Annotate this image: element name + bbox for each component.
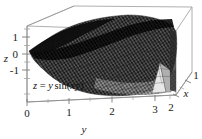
y-axis-title: y <box>81 123 87 135</box>
equation-x: x <box>69 80 75 91</box>
equation-sin: sin <box>54 80 67 91</box>
equation-y: y <box>47 80 53 91</box>
surface-plot-canvas: 1 0 -1 z 0 1 2 3 y <box>0 0 202 139</box>
equation-text: z = ysin(xy) <box>32 80 84 92</box>
z-axis: 1 0 -1 z <box>3 26 30 102</box>
y-axis-line <box>27 95 176 102</box>
surface-plot-figure: 1 0 -1 z 0 1 2 3 y <box>0 0 202 139</box>
y-tick-label-0: 0 <box>24 107 30 119</box>
x-axis-title: x <box>183 87 189 99</box>
equation-annotation: z = ysin(xy) <box>32 80 84 92</box>
y-tick-label-3: 3 <box>152 103 158 115</box>
x-tick-label-1: 1 <box>193 69 199 81</box>
z-tick-label-neg1: -1 <box>10 64 19 76</box>
z-tick-label-0: 0 <box>13 48 19 60</box>
y-tick-label-1: 1 <box>66 106 72 118</box>
y-axis: 0 1 2 3 y <box>24 95 176 135</box>
z-tick-label-1: 1 <box>13 31 19 43</box>
box-back-left-receding <box>27 6 74 26</box>
y-tick-label-2: 2 <box>109 105 115 117</box>
equation-paren-close: ) <box>80 80 84 92</box>
surface-right-wall <box>170 30 176 92</box>
equation-equals: = <box>37 80 48 91</box>
z-axis-title: z <box>3 52 9 64</box>
x-tick-label-2: 2 <box>168 101 174 113</box>
